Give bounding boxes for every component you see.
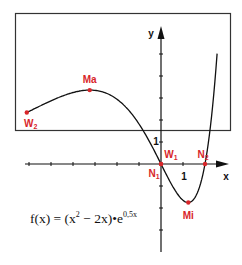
maximum-marker (88, 88, 92, 92)
chart-frame (16, 14, 231, 131)
inflection-point-1-label: W1 (164, 149, 177, 161)
zero-1-marker (159, 162, 163, 166)
zero-2-marker (203, 162, 207, 166)
inflection-point-2-marker (25, 110, 29, 114)
zero-1-label: N1 (148, 168, 159, 180)
function-formula: f(x) = (x2 − 2x)•e0,5x (30, 210, 137, 227)
minimum-marker (186, 200, 190, 204)
y-axis-label: y (148, 28, 154, 39)
maximum-label: Ma (83, 74, 97, 85)
formula-mid: − 2x)•e (80, 211, 123, 226)
inflection-point-2-label: W2 (24, 118, 37, 130)
y-axis-arrow-icon (158, 26, 165, 39)
minimum-label: Mi (183, 210, 194, 221)
special-points (25, 88, 208, 205)
formula-lhs: f(x) = (x (30, 211, 76, 226)
function-curve (27, 54, 217, 203)
formula-exponent-2: 0,5x (123, 210, 137, 219)
x-axis-arrow-icon (216, 161, 229, 168)
x-tick-label-1: 1 (181, 171, 187, 182)
x-axis-label: x (223, 171, 229, 182)
axis-ticks (29, 54, 205, 230)
y-tick-label-1: 1 (153, 136, 159, 147)
